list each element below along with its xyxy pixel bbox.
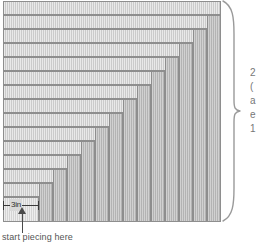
- v-strip-10: [165, 57, 179, 222]
- start-piecing-caption: start piecing here: [2, 232, 73, 242]
- v-strip-13: [207, 15, 221, 222]
- measure-cap-left: [3, 201, 4, 210]
- right-note-line-2: (: [250, 80, 261, 94]
- h-strip-9: [3, 71, 165, 85]
- right-annotation-text: 2 ( a e 1: [250, 66, 261, 136]
- v-strip-6: [109, 113, 123, 222]
- log-cabin-block: [0, 0, 222, 222]
- measure-cap-right: [38, 201, 39, 210]
- v-strip-12: [193, 29, 207, 222]
- v-strip-7: [123, 99, 137, 222]
- v-strip-11: [179, 43, 193, 222]
- right-note-line-5: 1: [250, 122, 261, 136]
- v-strip-8: [137, 85, 151, 222]
- arrow-shaft: [22, 212, 23, 233]
- right-note-line-4: e: [250, 108, 261, 122]
- h-strip-7: [3, 99, 137, 113]
- right-note-line-3: a: [250, 94, 261, 108]
- h-strip-8: [3, 85, 151, 99]
- v-strip-9: [151, 71, 165, 222]
- h-strip-14: [3, 1, 221, 15]
- right-note-line-1: 2: [250, 66, 261, 80]
- quilt-diagram: 3in start piecing here 2 ( a e 1: [0, 0, 261, 242]
- v-strip-4: [81, 141, 95, 222]
- h-strip-5: [3, 127, 109, 141]
- h-strip-11: [3, 43, 193, 57]
- right-brace-icon: [221, 0, 241, 222]
- h-strip-6: [3, 113, 123, 127]
- h-strip-13: [3, 15, 221, 29]
- h-strip-12: [3, 29, 207, 43]
- h-strip-10: [3, 57, 179, 71]
- v-strip-2: [53, 169, 67, 222]
- v-strip-5: [95, 127, 109, 222]
- start-piecing-arrow-icon: [17, 207, 28, 233]
- v-strip-1: [39, 183, 53, 222]
- v-strip-3: [67, 155, 81, 222]
